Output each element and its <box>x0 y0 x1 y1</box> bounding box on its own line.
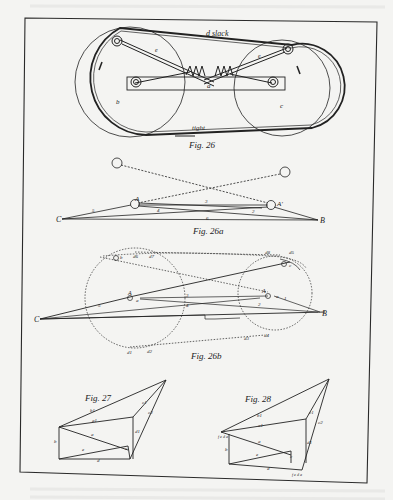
fig26a-label-A1: A' <box>276 200 283 208</box>
fig28-label-b1: b1 <box>257 413 262 418</box>
fig26b-drawing <box>40 248 325 348</box>
fig26b-label-A-right: A <box>261 288 266 294</box>
fig26a-label-B: B <box>320 216 325 225</box>
fig27-labels: Fig. 27 b1 a1 a e b d c1 c2 d1 c <box>54 393 153 463</box>
fig27-label-a1: a1 <box>92 418 97 423</box>
fig26-label-right-rod: e <box>258 53 261 59</box>
fig28-label-a: a <box>258 439 261 444</box>
fig28-caption: Fig. 28 <box>244 394 271 404</box>
fig26b-label-d3: d3 <box>244 336 250 341</box>
fig26b-label-b: b <box>120 255 123 260</box>
fig26b-label-c: c <box>289 263 292 268</box>
fig26b-label-1: 1 <box>284 296 287 301</box>
fig27-label-c2: c2 <box>148 410 153 415</box>
fig26-label-slack: d slack <box>206 29 229 38</box>
fig27-label-a: a <box>91 432 94 437</box>
fig26b-label-d5: d5 <box>289 250 295 255</box>
fig28-label-e: e <box>256 452 259 457</box>
bleed-through-text <box>30 6 385 499</box>
fig28-label-left-tag: f e d a <box>218 434 228 439</box>
fig28-label-d1: d1 <box>307 440 312 445</box>
fig26a-caption: Fig. 26a <box>192 226 224 236</box>
fig28-label-d: d <box>267 466 270 471</box>
fig26a-label-A: A <box>134 195 140 203</box>
scanned-page: d slack tight a b c e e Fig. 26 C B A A'… <box>0 0 393 500</box>
fig26b-label-d7: d7 <box>149 254 155 259</box>
fig26b-label-d6: d6 <box>133 254 139 259</box>
fig26a-label-2: 2 <box>252 209 255 214</box>
fig26b-label-a-left: a <box>136 298 139 303</box>
fig26b-label-d1: d1 <box>127 350 132 355</box>
figure-frame <box>20 18 377 483</box>
fig26b-caption: Fig. 26b <box>190 351 222 361</box>
fig26a-label-6: 6 <box>206 216 209 221</box>
fig26-label-left-pulley: b <box>116 98 120 106</box>
fig26-caption: Fig. 26 <box>188 140 215 150</box>
fig26a-label-C: C <box>56 215 62 224</box>
fig27-label-b: b <box>54 439 57 444</box>
fig28-label-b: b <box>225 447 228 452</box>
fig28-label-c2: c2 <box>318 420 323 425</box>
fig26a-drawing <box>62 158 318 220</box>
fig26b-label-C: C <box>34 315 40 324</box>
fig28-label-a1: a1 <box>258 423 263 428</box>
fig27-caption: Fig. 27 <box>84 393 111 403</box>
fig27-drawing <box>59 380 166 459</box>
page-drawing: d slack tight a b c e e Fig. 26 C B A A'… <box>0 0 393 500</box>
fig28-label-bottom-tag: f e d a <box>292 472 302 477</box>
fig26a-label-4: 4 <box>157 208 160 213</box>
fig26-label-right-pulley: c <box>280 102 284 110</box>
fig26b-label-B: B <box>322 309 327 318</box>
fig26b-label-d8: d8 <box>265 250 271 255</box>
fig26b-label-d2: d2 <box>147 349 153 354</box>
fig27-label-d1: d1 <box>135 429 140 434</box>
fig26a-label-3: 3 <box>205 199 208 204</box>
fig27-label-c1: c1 <box>142 400 147 405</box>
fig27-label-b1: b1 <box>90 408 95 413</box>
fig26b-label-4: 4 <box>186 303 189 308</box>
fig26a-labels: C B A A' 3 4 6 2 5 Fig. 26a <box>56 195 325 236</box>
fig26b-label-A-left: A <box>127 290 132 296</box>
fig26b-label-d4: d4 <box>264 333 270 338</box>
fig28-label-c1: c1 <box>309 410 314 415</box>
fig26b-label-a-right: a <box>276 294 279 299</box>
fig26b-label-2: 2 <box>258 302 261 307</box>
fig28-drawing <box>221 379 329 470</box>
fig26-label-tight: tight <box>192 124 206 132</box>
fig27-label-e: e <box>82 447 85 452</box>
fig26-label-left-rod: e <box>155 47 158 53</box>
fig26-label-bar: a <box>207 82 211 90</box>
fig28-label-c: c <box>290 454 293 459</box>
